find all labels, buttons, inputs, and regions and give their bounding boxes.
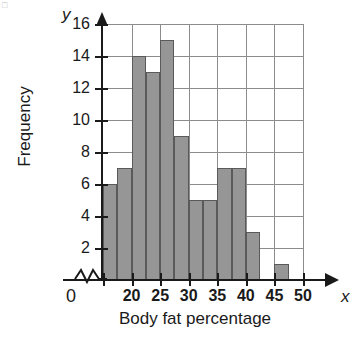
gridline-vertical — [303, 24, 304, 280]
y-axis-tick — [95, 88, 108, 90]
histogram-bar — [232, 168, 246, 280]
x-axis-tick — [303, 273, 305, 286]
y-axis-tick — [95, 216, 108, 218]
y-axis-tick — [95, 56, 108, 58]
x-axis-tick-label: 50 — [283, 288, 323, 304]
y-axis-tick-label: 12 — [50, 80, 90, 96]
x-axis-title: Body fat percentage — [63, 310, 327, 327]
origin-label: 0 — [66, 287, 76, 305]
x-axis-arrow — [325, 273, 339, 287]
axis-break-icon — [74, 266, 108, 284]
y-axis-title: Frequency — [16, 57, 33, 197]
histogram-bar — [132, 56, 146, 280]
histogram-bar — [217, 168, 231, 280]
y-axis-tick — [95, 24, 108, 26]
y-axis-tick — [95, 120, 108, 122]
plot-area — [103, 24, 303, 280]
y-axis-tick-label: 6 — [50, 176, 90, 192]
y-axis-tick-label: 2 — [50, 240, 90, 256]
y-axis-tick — [95, 184, 108, 186]
y-axis-tick-label: 14 — [50, 48, 90, 64]
gridline-horizontal — [103, 24, 303, 25]
histogram-figure: □ y 246810121416 Frequency x 20253035404… — [0, 0, 362, 340]
y-axis-tick-label: 8 — [50, 144, 90, 160]
histogram-bar — [246, 232, 260, 280]
histogram-bar — [203, 200, 217, 280]
x-axis-tick — [160, 273, 162, 286]
x-axis-tick — [246, 273, 248, 286]
x-axis-tick — [189, 273, 191, 286]
histogram-bar — [117, 168, 131, 280]
x-axis-letter: x — [341, 288, 350, 305]
y-axis-tick-label: 4 — [50, 208, 90, 224]
x-axis-tick — [217, 273, 219, 286]
x-axis-tick — [132, 273, 134, 286]
page-corner-mark: □ — [2, 0, 7, 10]
y-axis-tick — [95, 152, 108, 154]
histogram-bar — [160, 40, 174, 280]
x-axis-tick — [274, 273, 276, 286]
histogram-bar — [274, 264, 288, 280]
histogram-bar — [174, 136, 188, 280]
y-axis-tick — [95, 248, 108, 250]
gridline-vertical — [274, 24, 275, 280]
histogram-bar — [146, 72, 160, 280]
y-axis-tick-label: 16 — [50, 16, 90, 32]
histogram-bar — [189, 200, 203, 280]
y-axis-tick-label: 10 — [50, 112, 90, 128]
